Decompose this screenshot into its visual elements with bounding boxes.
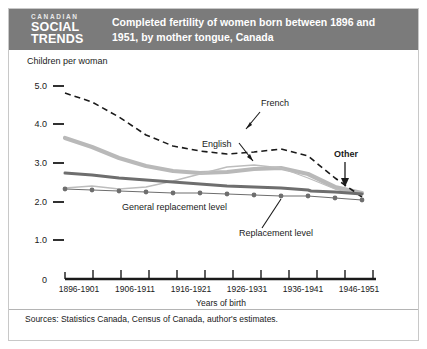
chart-svg: 5.0 4.0 3.0 2.0 1.0 0: [9, 50, 418, 308]
x-tick-label: 1906-1911: [115, 284, 155, 294]
annotation-label-general-replacement: General replacement level: [122, 202, 227, 212]
x-tick-label: 1926-1931: [227, 284, 268, 294]
series-markers-replacement: [63, 187, 365, 203]
annotation-label-other: Other: [334, 149, 359, 159]
x-axis-labels: 1896-1901 1906-1911 1916-1921 1926-1931 …: [59, 284, 380, 294]
annotation-leader-replacement: [262, 199, 281, 228]
sources-note: Sources: Statistics Canada, Census of Ca…: [25, 314, 278, 324]
x-tick-label: 1916-1921: [171, 284, 212, 294]
y-tick-label: 1.0: [34, 235, 47, 245]
chart-title: Completed fertility of women born betwee…: [104, 15, 418, 43]
y-tick-label: 4.0: [34, 119, 47, 129]
publication-logo: CANADIAN SOCIAL TRENDS: [9, 14, 104, 46]
chart-figure: CANADIAN SOCIAL TRENDS Completed fertili…: [0, 0, 427, 349]
footer-divider: [9, 309, 418, 310]
plot-area: Children per woman 5.0 4.0 3.0 2.0 1.0 0: [9, 50, 418, 308]
header-band: CANADIAN SOCIAL TRENDS Completed fertili…: [9, 9, 418, 50]
y-axis-ticks: [53, 86, 64, 240]
y-tick-label: 0: [42, 275, 47, 285]
y-tick-label: 2.0: [34, 197, 47, 207]
x-tick-label: 1946-1951: [339, 284, 380, 294]
annotation-label-replacement: Replacement level: [239, 228, 313, 238]
x-axis-title: Years of birth: [196, 298, 246, 308]
logo-line-trends: TRENDS: [31, 33, 104, 46]
y-tick-label: 5.0: [34, 81, 47, 91]
y-tick-label: 3.0: [34, 158, 47, 168]
annotation-label-french: French: [261, 98, 289, 108]
y-axis-labels: 5.0 4.0 3.0 2.0 1.0 0: [34, 81, 47, 285]
x-tick-label: 1896-1901: [59, 284, 100, 294]
x-axis-ticks: [65, 270, 373, 279]
x-tick-label: 1936-1941: [283, 284, 324, 294]
annotation-label-english: English: [202, 139, 232, 149]
